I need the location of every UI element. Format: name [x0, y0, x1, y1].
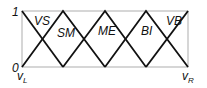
- y-label-one: 1: [12, 5, 19, 19]
- set-label-bi: BI: [141, 24, 153, 38]
- set-label-me: ME: [98, 24, 117, 38]
- set-label-vb: VB: [166, 14, 182, 28]
- x-label-right: vR: [182, 69, 194, 85]
- membership-diagram: 1 0 VS SM ME BI VB vL vR: [0, 0, 207, 88]
- set-me-line: [63, 11, 146, 67]
- set-label-sm: SM: [57, 26, 75, 40]
- x-label-left: vL: [17, 69, 27, 85]
- set-label-vs: VS: [34, 14, 50, 28]
